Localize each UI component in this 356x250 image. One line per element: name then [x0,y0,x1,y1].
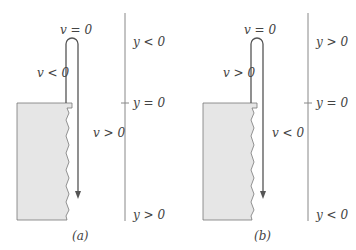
label-a-y-top: y < 0 [133,36,165,48]
arrowhead-a [75,191,81,199]
panel-b-drawing [203,13,312,221]
caption-b: (b) [254,229,271,243]
label-b-y-top: y > 0 [316,36,348,48]
label-b-v-top: v = 0 [244,24,276,36]
label-a-v-up: v < 0 [37,67,69,79]
diagram-canvas [0,0,356,250]
caption-a: (a) [72,229,89,243]
panel-a-drawing [17,13,129,221]
label-a-v-down: v > 0 [93,127,125,139]
label-a-y-origin: y = 0 [133,97,165,109]
label-b-v-up: v > 0 [223,67,255,79]
label-b-y-bottom: y < 0 [316,209,348,221]
label-b-y-origin: y = 0 [316,97,348,109]
label-b-v-down: v < 0 [272,127,304,139]
arrowhead-b [260,191,266,199]
label-a-v-top: v = 0 [60,24,92,36]
label-a-y-bottom: y > 0 [133,209,165,221]
cliff-a [17,103,72,220]
cliff-b [203,103,257,220]
